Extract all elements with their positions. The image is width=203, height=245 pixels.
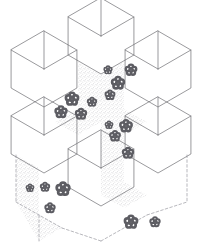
flower-rosette-icon (104, 66, 112, 73)
flower-rosette-icon (112, 77, 124, 88)
flower-6 (126, 65, 137, 75)
flower-rosette-icon (56, 106, 67, 117)
isometric-hexagon-tiling-drawing (0, 0, 203, 245)
flower-2 (56, 106, 67, 117)
flower-rosette-icon (125, 216, 137, 228)
flower-5 (112, 77, 124, 88)
flower-12 (105, 121, 112, 128)
flower-13 (57, 183, 70, 195)
flower-rosette-icon (150, 217, 159, 226)
flower-17 (150, 217, 159, 226)
flower-rosette-icon (88, 98, 96, 106)
flower-rosette-icon (106, 90, 115, 99)
flower-14 (41, 183, 49, 191)
flower-rosette-icon (26, 184, 33, 191)
flower-4 (88, 98, 96, 106)
flower-rosette-icon (110, 131, 120, 140)
flower-1 (66, 93, 78, 105)
flower-7 (106, 90, 115, 99)
flower-rosette-icon (45, 203, 54, 212)
flower-rosette-icon (41, 183, 49, 191)
flower-rosette-icon (76, 109, 86, 119)
flower-rosette-icon (126, 65, 137, 75)
flower-11 (123, 148, 133, 158)
flower-16 (125, 216, 137, 228)
flower-3 (76, 109, 86, 119)
flower-8 (104, 66, 112, 73)
flower-rosette-icon (105, 121, 112, 128)
figure-canvas: Isometric hexagonal tiling Black and whi… (0, 0, 203, 245)
flower-18 (26, 184, 33, 191)
flower-rosette-icon (66, 93, 78, 105)
flower-rosette-icon (57, 183, 70, 195)
flower-15 (45, 203, 54, 212)
flower-rosette-icon (123, 148, 133, 158)
flower-10 (110, 131, 120, 140)
flower-rosette-icon (120, 120, 131, 131)
flower-9 (120, 120, 131, 131)
